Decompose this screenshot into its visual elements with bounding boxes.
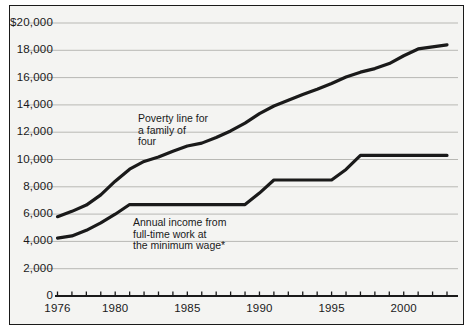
series-line-0 — [58, 45, 448, 217]
x-tick-label-1985: 1985 — [163, 302, 211, 314]
y-tick-label-12000: 12,000 — [17, 125, 53, 137]
y-tick-label-0: 0 — [46, 289, 53, 301]
y-tick-label-8000: 8,000 — [23, 180, 53, 192]
series-line-1 — [58, 155, 448, 238]
y-tick-label-14000: 14,000 — [17, 98, 53, 110]
minimum-wage-annotation-line-2: the minimum wage* — [133, 240, 226, 252]
y-tick-label-10000: 10,000 — [17, 153, 53, 165]
poverty-line-annotation: Poverty line fora family offour — [138, 113, 208, 148]
chart-canvas — [0, 0, 474, 336]
y-tick-label-16000: 16,000 — [17, 71, 53, 83]
x-tick-label-1995: 1995 — [308, 302, 356, 314]
x-tick-label-1980: 1980 — [91, 302, 139, 314]
y-tick-label-4000: 4,000 — [23, 234, 53, 246]
poverty-line-vs-minimum-wage-chart: 02,0004,0006,0008,00010,00012,00014,0001… — [0, 0, 474, 336]
y-tick-label-2000: 2,000 — [23, 262, 53, 274]
minimum-wage-annotation: Annual income fromfull-time work atthe m… — [133, 217, 226, 252]
x-axis — [55, 292, 458, 297]
y-tick-label-18000: 18,000 — [17, 43, 53, 55]
x-tick-label-1990: 1990 — [235, 302, 283, 314]
y-tick-label-6000: 6,000 — [23, 207, 53, 219]
poverty-line-annotation-line-2: four — [138, 136, 208, 148]
x-tick-label-1976: 1976 — [34, 302, 82, 314]
data-series — [58, 45, 448, 238]
y-tick-label-20000: $20,000 — [10, 16, 53, 28]
minimum-wage-annotation-line-0: Annual income from — [133, 217, 226, 229]
x-tick-label-2000: 2000 — [380, 302, 428, 314]
poverty-line-annotation-line-0: Poverty line for — [138, 113, 208, 125]
